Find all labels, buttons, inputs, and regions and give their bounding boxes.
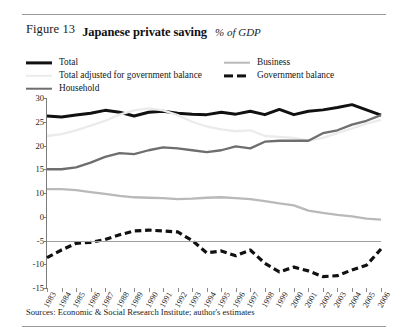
x-axis-tick-label: 2006 (377, 291, 392, 309)
bottom-rule (22, 326, 386, 327)
figure-title-texts: Japanese private saving% of GDP (82, 22, 261, 40)
series-lines (47, 98, 381, 288)
legend-swatch-icon (26, 57, 52, 69)
figure-page: Figure 13Japanese private saving% of GDP… (0, 0, 408, 335)
legend-label: Government balance (257, 70, 334, 81)
legend-column-right: BusinessGovernment balance (224, 56, 394, 82)
x-axis-tick-label: 2000 (290, 291, 305, 309)
source-note: Sources: Economic & Social Research Inst… (26, 307, 255, 317)
legend-label: Total adjusted for government balance (59, 70, 202, 81)
y-axis-tick-mark (43, 217, 47, 218)
top-rule (22, 14, 386, 15)
x-axis-tick-label: 2002 (319, 291, 334, 309)
figure-number: Figure 13 (26, 22, 75, 37)
y-axis-tick-mark (43, 122, 47, 123)
legend-item-household[interactable]: Household (26, 82, 226, 95)
series-line-business (47, 189, 381, 219)
chart-area: 30252015100-5-10-15 19831984198519861987… (0, 95, 408, 295)
legend-swatch-icon (224, 70, 250, 82)
x-axis-tick-label: 2005 (362, 291, 377, 309)
x-axis-tick-mark (381, 288, 382, 292)
y-axis-tick-mark (43, 264, 47, 265)
x-axis-tick-label: 2003 (333, 291, 348, 309)
legend-swatch-icon (26, 70, 52, 82)
y-axis-tick-mark (43, 146, 47, 147)
legend-label: Business (257, 57, 290, 68)
y-axis-tick-mark (43, 169, 47, 170)
legend-label: Total (59, 57, 78, 68)
legend-swatch-icon (224, 57, 250, 69)
legend-item-total[interactable]: Total (26, 56, 226, 69)
x-axis-tick-label: 1998 (261, 291, 276, 309)
x-axis-tick-label: 2001 (304, 291, 319, 309)
legend-column-left: TotalTotal adjusted for government balan… (26, 56, 226, 95)
reference-line (47, 241, 381, 242)
figure-subtitle: % of GDP (215, 26, 261, 38)
figure-title-block: Figure 13Japanese private saving% of GDP (26, 22, 261, 40)
y-axis-tick-mark (43, 98, 47, 99)
legend-item-total-adjusted[interactable]: Total adjusted for government balance (26, 69, 226, 82)
x-axis-tick-label: 1999 (275, 291, 290, 309)
legend-item-government-balance[interactable]: Government balance (224, 69, 394, 82)
y-axis-tick-mark (43, 193, 47, 194)
x-axis-tick-label: 2004 (348, 291, 363, 309)
page-title: Japanese private saving (82, 25, 207, 39)
plot-region: 30252015100-5-10-15 (47, 98, 381, 288)
series-line-government-balance (47, 230, 381, 277)
legend-item-business[interactable]: Business (224, 56, 394, 69)
legend-label: Household (59, 83, 99, 94)
series-line-total (47, 105, 381, 117)
